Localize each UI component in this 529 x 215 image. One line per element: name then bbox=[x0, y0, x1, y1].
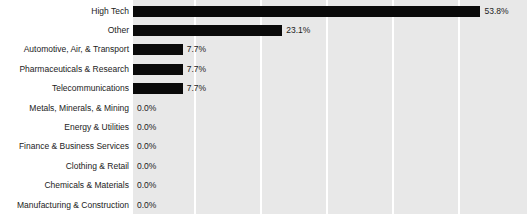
category-label: Pharmaceuticals & Research bbox=[19, 60, 129, 79]
bar-row: Manufacturing & Construction0.0% bbox=[0, 196, 529, 215]
bar-rows: High Tech53.8%Other23.1%Automotive, Air,… bbox=[0, 0, 529, 214]
bar bbox=[133, 44, 183, 55]
value-label: 0.0% bbox=[137, 118, 156, 137]
category-label: Finance & Business Services bbox=[19, 137, 129, 156]
value-label: 0.0% bbox=[137, 99, 156, 118]
bar bbox=[133, 64, 183, 75]
category-label: Chemicals & Materials bbox=[44, 176, 129, 195]
value-label: 7.7% bbox=[187, 79, 206, 98]
category-label: Metals, Minerals, & Mining bbox=[29, 99, 129, 118]
value-label: 7.7% bbox=[187, 40, 206, 59]
category-label: Energy & Utilities bbox=[64, 118, 129, 137]
bar-row: Pharmaceuticals & Research7.7% bbox=[0, 60, 529, 79]
value-label: 0.0% bbox=[137, 196, 156, 215]
bar-chart: High Tech53.8%Other23.1%Automotive, Air,… bbox=[0, 0, 529, 214]
value-label: 0.0% bbox=[137, 157, 156, 176]
value-label: 7.7% bbox=[187, 60, 206, 79]
value-label: 53.8% bbox=[484, 2, 508, 21]
bar-row: High Tech53.8% bbox=[0, 2, 529, 21]
bar bbox=[133, 6, 480, 17]
bar-row: Energy & Utilities0.0% bbox=[0, 118, 529, 137]
bar-row: Telecommunications7.7% bbox=[0, 79, 529, 98]
category-label: Automotive, Air, & Transport bbox=[24, 40, 129, 59]
bar-row: Finance & Business Services0.0% bbox=[0, 137, 529, 156]
value-label: 23.1% bbox=[286, 21, 310, 40]
bar-row: Other23.1% bbox=[0, 21, 529, 40]
bar-row: Chemicals & Materials0.0% bbox=[0, 176, 529, 195]
category-label: High Tech bbox=[91, 2, 129, 21]
category-label: Manufacturing & Construction bbox=[17, 196, 129, 215]
bar bbox=[133, 83, 183, 94]
value-label: 0.0% bbox=[137, 176, 156, 195]
category-label: Telecommunications bbox=[52, 79, 129, 98]
bar-row: Clothing & Retail0.0% bbox=[0, 157, 529, 176]
value-label: 0.0% bbox=[137, 137, 156, 156]
category-label: Clothing & Retail bbox=[66, 157, 129, 176]
bar-row: Automotive, Air, & Transport7.7% bbox=[0, 40, 529, 59]
bar bbox=[133, 25, 282, 36]
category-label: Other bbox=[108, 21, 129, 40]
bar-row: Metals, Minerals, & Mining0.0% bbox=[0, 99, 529, 118]
